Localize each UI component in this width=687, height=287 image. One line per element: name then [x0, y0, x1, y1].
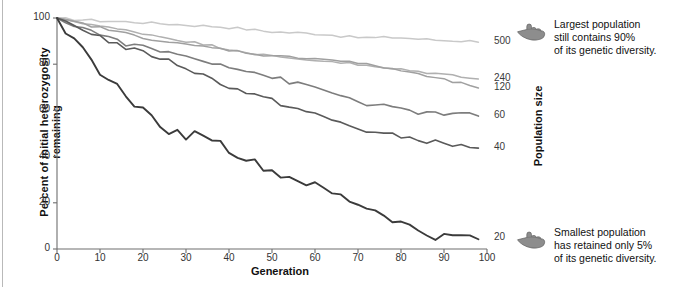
x-tick-label: 30	[171, 252, 201, 263]
annotation-largest-text: Largest population still contains 90% of…	[554, 18, 657, 57]
pointing-hand-icon	[516, 228, 550, 250]
x-tick-label: 60	[300, 252, 330, 263]
pointing-hand-icon	[516, 20, 550, 42]
x-tick-label: 0	[42, 252, 72, 263]
y-tick-label: 40	[22, 150, 50, 161]
axes-layer	[53, 18, 487, 253]
x-tick-label: 90	[429, 252, 459, 263]
x-tick-label: 100	[472, 252, 502, 263]
x-tick-label: 40	[214, 252, 244, 263]
x-tick-label: 70	[343, 252, 373, 263]
series-label-40: 40	[494, 141, 526, 152]
annotation-smallest-text: Smallest population has retained only 5%…	[554, 226, 657, 265]
annotation-smallest-population: Smallest population has retained only 5%…	[516, 226, 687, 265]
y-tick-label: 60	[22, 103, 50, 114]
series-lines-layer	[57, 18, 478, 240]
figure-root: Percent of initial heterozygosity remain…	[0, 0, 687, 287]
annotation-largest-population: Largest population still contains 90% of…	[516, 18, 686, 57]
y-tick-label: 20	[22, 196, 50, 207]
x-tick-label: 50	[257, 252, 287, 263]
x-tick-label: 20	[128, 252, 158, 263]
series-label-120: 120	[494, 81, 526, 92]
y-tick-label: 80	[22, 57, 50, 68]
series-label-60: 60	[494, 109, 526, 120]
x-tick-label: 10	[85, 252, 115, 263]
x-tick-label: 80	[386, 252, 416, 263]
y-tick-label: 100	[22, 11, 50, 22]
